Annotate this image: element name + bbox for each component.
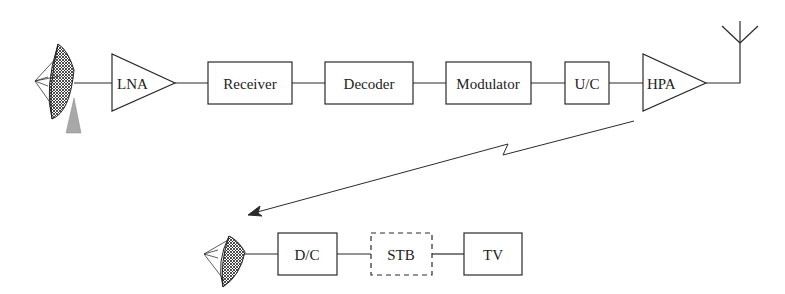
modulator-block: Modulator: [446, 62, 531, 104]
decoder-block: Decoder: [325, 62, 413, 104]
stb-label: STB: [387, 247, 415, 263]
modulator-label: Modulator: [456, 76, 519, 92]
tv-label: TV: [483, 247, 503, 263]
downconverter-block: D/C: [278, 233, 337, 275]
satellite-dish-downlink-icon: [204, 236, 245, 287]
set-top-box-block: STB: [371, 233, 432, 275]
hpa-amplifier: HPA: [643, 54, 706, 111]
satellite-dish-uplink-icon: [35, 44, 81, 133]
hpa-label: HPA: [647, 76, 676, 92]
decoder-label: Decoder: [344, 76, 395, 92]
lna-amplifier: LNA: [112, 54, 175, 111]
tv-block: TV: [464, 233, 522, 275]
upconverter-label: U/C: [574, 76, 599, 92]
upconverter-block: U/C: [565, 62, 609, 104]
receiver-label: Receiver: [223, 76, 276, 92]
broadcast-chain-diagram: LNA Receiver Decoder Modulator U/C HPA: [0, 0, 785, 294]
downconverter-label: D/C: [294, 247, 319, 263]
wireless-link-arrow: [248, 121, 634, 216]
receiver-block: Receiver: [208, 62, 292, 104]
lna-label: LNA: [117, 76, 148, 92]
